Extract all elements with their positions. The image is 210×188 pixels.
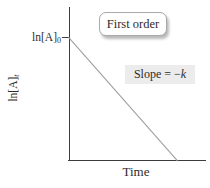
first-order-kinetics-plot: ln[A]0 ln[A]t First order Slope = −k Tim…: [0, 0, 210, 188]
y-intercept-label: ln[A]0: [18, 30, 61, 44]
x-axis-line: [68, 160, 206, 161]
y-axis-line: [69, 7, 70, 161]
first-order-badge: First order: [99, 12, 167, 36]
y-axis-label-base: ln[A]: [7, 77, 19, 102]
first-order-badge-label: First order: [107, 17, 159, 32]
slope-annotation-text: Slope = −: [134, 67, 181, 82]
y-axis-label-subscript: t: [12, 74, 21, 76]
slope-annotation-variable: k: [181, 67, 186, 82]
slope-annotation: Slope = −k: [125, 65, 195, 84]
x-axis-label: Time: [106, 164, 166, 180]
y-intercept-base: ln[A]: [32, 31, 57, 43]
y-intercept-subscript: 0: [57, 36, 61, 45]
decay-data-line: [68, 37, 178, 162]
y-axis-label: ln[A]t: [7, 74, 19, 101]
